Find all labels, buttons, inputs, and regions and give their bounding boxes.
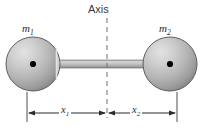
extension-lines xyxy=(27,92,177,122)
rotational-inertia-diagram: m1 m2 Axis x1 x2 xyxy=(0,0,204,132)
arrowhead-x2-right xyxy=(169,110,176,115)
distance-x1-label: x1 xyxy=(59,104,71,118)
mass-1-label: m1 xyxy=(22,22,34,37)
center-of-mass-dot-2 xyxy=(167,61,173,67)
distance-x2-label: x2 xyxy=(130,104,142,118)
sphere-mass-2 xyxy=(143,37,197,91)
arrowhead-x1-left xyxy=(28,110,35,115)
diagram-canvas xyxy=(0,0,204,132)
center-of-mass-dot-1 xyxy=(30,61,36,67)
connecting-rod xyxy=(52,60,152,68)
arrowhead-x1-right xyxy=(99,110,106,115)
axis-label: Axis xyxy=(88,3,109,15)
arrowhead-x2-left xyxy=(108,110,115,115)
sphere-mass-1 xyxy=(6,37,60,91)
mass-2-label: m2 xyxy=(159,22,171,37)
